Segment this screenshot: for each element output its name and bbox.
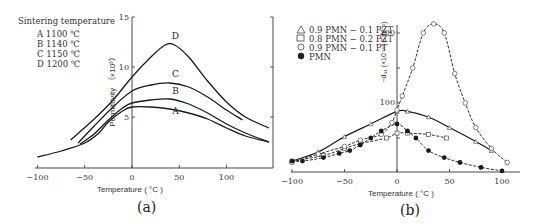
y-tick-label: 100 bbox=[380, 98, 395, 107]
filled-circle-marker bbox=[379, 129, 384, 134]
x-tick-label: −50 bbox=[76, 173, 93, 182]
filled-circle-marker bbox=[479, 165, 484, 170]
x-tick-label: 50 bbox=[174, 173, 184, 182]
square-marker bbox=[395, 131, 399, 135]
open-circle-marker bbox=[463, 101, 468, 106]
caption-a: (a) bbox=[137, 199, 156, 215]
open-circle-marker bbox=[316, 152, 321, 157]
x-axis-label-a: Temperature ( °C ) bbox=[97, 185, 163, 194]
filled-circle-marker bbox=[458, 160, 463, 165]
open-circle-marker-icon bbox=[298, 44, 304, 50]
x-tick-label: 0 bbox=[129, 173, 134, 182]
legend-a-item: B 1140 ℃ bbox=[37, 39, 80, 49]
filled-circle-marker bbox=[300, 159, 305, 164]
open-circle-marker bbox=[442, 31, 447, 36]
open-circle-marker bbox=[421, 31, 426, 36]
legend-a-item: D 1200 ℃ bbox=[37, 59, 80, 69]
filled-circle-marker bbox=[442, 155, 447, 160]
filled-circle-marker bbox=[426, 148, 431, 153]
x-axis-label-b: Temperature ( °C ) bbox=[368, 189, 434, 198]
square-marker bbox=[385, 136, 389, 140]
legend-b: 0.9 PMN − 0.1 PZT 0.8 PMN − 0.2 PZT 0.9 … bbox=[297, 25, 393, 62]
filled-circle-marker bbox=[395, 122, 400, 127]
filled-circle-marker bbox=[414, 136, 419, 141]
open-circle-marker bbox=[358, 138, 363, 143]
square-marker bbox=[444, 136, 448, 140]
filled-circle-marker bbox=[321, 155, 326, 160]
curve-label: D bbox=[172, 31, 179, 41]
x-tick-label: −100 bbox=[281, 177, 303, 186]
y-tick-label: 15 bbox=[119, 13, 129, 22]
curve-label: C bbox=[172, 69, 179, 79]
legend-a-title: Sintering temperature bbox=[18, 16, 115, 26]
x-tick-label: 100 bbox=[494, 177, 509, 186]
open-circle-marker bbox=[473, 125, 478, 130]
square-marker-icon bbox=[297, 35, 304, 41]
curve-D bbox=[71, 44, 269, 141]
filled-circle-marker bbox=[337, 151, 342, 156]
figure-canvas: −100−5005010051015 DCBA Temperature ( °C… bbox=[0, 0, 547, 224]
filled-circle-marker bbox=[358, 143, 363, 148]
legend-a-item: A 1100 ℃ bbox=[36, 29, 80, 39]
open-circle-marker bbox=[395, 108, 400, 113]
x-tick-label: 0 bbox=[394, 177, 399, 186]
y-axis-label-a: Permittivity （×10³） bbox=[108, 53, 117, 127]
open-circle-marker bbox=[342, 144, 347, 149]
legend-b-item: PMN bbox=[309, 52, 331, 62]
x-tick-label: −100 bbox=[27, 173, 49, 182]
filled-circle-marker bbox=[368, 136, 373, 141]
open-circle-marker bbox=[489, 146, 494, 151]
filled-circle-marker bbox=[290, 159, 295, 164]
open-circle-marker bbox=[505, 160, 510, 165]
legend-a: Sintering temperature A 1100 ℃ B 1140 ℃ … bbox=[18, 16, 115, 69]
x-tick-label: −50 bbox=[336, 177, 353, 186]
curve-label: A bbox=[171, 106, 179, 116]
open-circle-marker bbox=[431, 22, 436, 27]
open-circle-marker bbox=[410, 66, 415, 71]
panel-a-chart: −100−5005010051015 DCBA Temperature ( °C… bbox=[18, 13, 273, 215]
square-marker bbox=[427, 133, 431, 137]
y-tick-label: 5 bbox=[124, 113, 129, 122]
y-tick-label: 10 bbox=[119, 63, 129, 72]
curve-C bbox=[78, 83, 242, 143]
caption-b: (b) bbox=[400, 202, 420, 218]
filled-circle-marker-icon bbox=[298, 53, 304, 59]
open-circle-marker bbox=[400, 94, 405, 99]
legend-a-item: C 1150 ℃ bbox=[37, 49, 80, 59]
open-circle-marker bbox=[389, 120, 394, 125]
panel-b-chart: −100−50050100100200 Temperature ( °C ) −… bbox=[281, 21, 520, 218]
filled-circle-marker bbox=[405, 129, 410, 134]
filled-circle-marker bbox=[500, 169, 505, 174]
x-tick-label: 50 bbox=[444, 177, 454, 186]
filled-circle-marker bbox=[347, 148, 352, 153]
x-tick-label: 100 bbox=[219, 173, 234, 182]
curve-label: B bbox=[172, 86, 179, 96]
triangle-marker-icon bbox=[297, 26, 305, 33]
open-circle-marker bbox=[452, 71, 457, 76]
